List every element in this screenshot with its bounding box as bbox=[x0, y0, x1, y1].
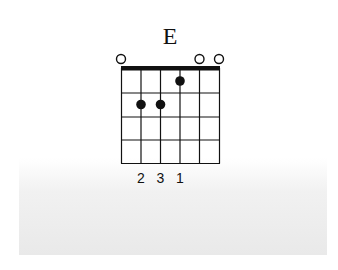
finger-dot bbox=[156, 100, 166, 110]
finger-label: 2 bbox=[134, 170, 148, 186]
nut bbox=[121, 66, 220, 71]
chord-diagram bbox=[0, 0, 338, 270]
frets bbox=[121, 93, 220, 164]
open-string-markers bbox=[117, 55, 224, 64]
open-string-icon bbox=[117, 55, 126, 64]
finger-dot bbox=[175, 76, 185, 86]
open-string-icon bbox=[215, 55, 224, 64]
finger-dot bbox=[136, 100, 146, 110]
strings bbox=[122, 68, 220, 164]
open-string-icon bbox=[195, 55, 204, 64]
finger-label: 3 bbox=[154, 170, 168, 186]
finger-label: 1 bbox=[173, 170, 187, 186]
